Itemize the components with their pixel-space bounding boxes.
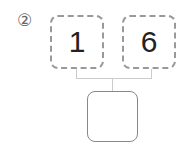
answer-box[interactable]: [87, 91, 138, 142]
connector-horizontal: [76, 78, 152, 79]
number-box-left: 1: [50, 15, 104, 69]
number-box-right: 6: [122, 15, 176, 69]
problem-number: ②: [17, 10, 32, 30]
connector-center: [112, 78, 113, 91]
